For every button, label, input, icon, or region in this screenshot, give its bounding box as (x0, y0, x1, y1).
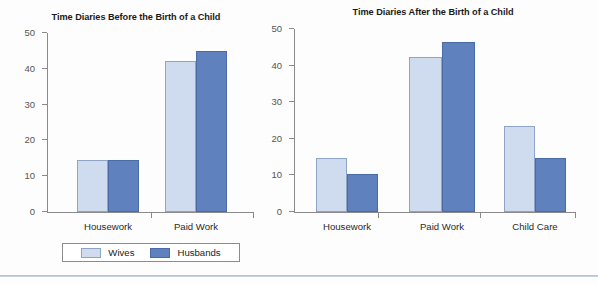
y-tick-before-50: 50 (42, 32, 47, 33)
bottom-divider (0, 275, 598, 277)
y-tick-label-before-50: 50 (24, 27, 35, 38)
legend-entry-wives-before: Wives (81, 247, 134, 258)
bar-after-housework-husbands (347, 174, 378, 212)
bar-before-housework-wives (77, 160, 108, 212)
x-axis-line-after (294, 212, 576, 213)
y-tick-label-after-30: 30 (271, 96, 282, 107)
x-label-after-paidwork: Paid Work (420, 221, 464, 232)
y-tick-after-30: 30 (289, 101, 294, 102)
y-tick-label-after-20: 20 (271, 132, 282, 143)
y-tick-after-0: 0 (289, 211, 294, 212)
y-tick-label-after-50: 50 (271, 23, 282, 34)
bar-after-paidwork-wives (409, 57, 442, 212)
y-tick-before-20: 20 (42, 139, 47, 140)
x-label-before-paidwork: Paid Work (174, 221, 218, 232)
y-tick-before-40: 40 (42, 68, 47, 69)
y-tick-after-20: 20 (289, 138, 294, 139)
y-tick-after-40: 40 (289, 65, 294, 66)
x-tick-after-1 (378, 213, 379, 218)
y-tick-label-after-0: 0 (277, 206, 282, 217)
y-axis-line-before (47, 33, 48, 213)
bar-before-paidwork-husbands (196, 51, 227, 212)
y-tick-label-after-10: 10 (271, 169, 282, 180)
x-tick-before-end (253, 213, 254, 218)
y-tick-label-after-40: 40 (271, 59, 282, 70)
y-tick-before-30: 30 (42, 104, 47, 105)
bar-after-paidwork-husbands (442, 42, 475, 213)
chart-title-after: Time Diaries After the Birth of a Child (268, 7, 598, 17)
bar-before-paidwork-wives (165, 61, 196, 212)
y-tick-before-10: 10 (42, 175, 47, 176)
y-tick-label-before-40: 40 (24, 62, 35, 73)
bar-after-housework-wives (316, 158, 347, 212)
x-tick-before-mid (151, 213, 152, 218)
y-tick-label-before-0: 0 (30, 206, 35, 217)
legend-entry-husbands-before: Husbands (150, 247, 220, 258)
y-tick-after-10: 10 (289, 174, 294, 175)
chart-panel-after: Time Diaries After the Birth of a Child … (268, 0, 598, 272)
bar-after-childcare-husbands (535, 158, 566, 212)
bar-after-childcare-wives (504, 126, 535, 212)
y-tick-label-before-10: 10 (24, 170, 35, 181)
y-tick-before-0: 0 (42, 211, 47, 212)
legend-swatch-wives-before (81, 248, 101, 258)
bar-before-housework-husbands (108, 160, 139, 212)
y-tick-label-before-20: 20 (24, 134, 35, 145)
legend-swatch-husbands-before (150, 248, 170, 258)
legend-label-husbands-before: Husbands (177, 247, 220, 258)
y-axis-line-after (294, 29, 295, 213)
x-label-before-housework: Housework (84, 221, 132, 232)
figure: Time Diaries Before the Birth of a Child… (0, 0, 598, 284)
plot-area-after: 0 10 20 30 40 50 (294, 29, 576, 213)
chart-panel-before: Time Diaries Before the Birth of a Child… (2, 0, 270, 272)
x-label-after-housework: Housework (323, 221, 371, 232)
x-tick-after-2 (480, 213, 481, 218)
chart-title-before: Time Diaries Before the Birth of a Child (2, 12, 270, 22)
x-label-after-childcare: Child Care (512, 221, 557, 232)
x-tick-after-end (575, 213, 576, 218)
y-tick-label-before-30: 30 (24, 98, 35, 109)
legend-before: Wives Husbands (62, 243, 240, 262)
y-tick-after-50: 50 (289, 28, 294, 29)
legend-label-wives-before: Wives (108, 247, 134, 258)
plot-area-before: 0 10 20 30 40 50 (47, 33, 254, 213)
